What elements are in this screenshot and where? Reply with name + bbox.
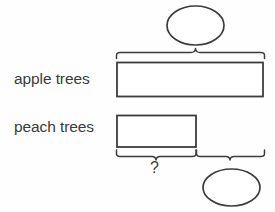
bottom-right-brace	[197, 150, 265, 160]
bottom-right-oval	[203, 169, 260, 206]
tape-diagram-figure: apple trees peach trees ?	[0, 0, 275, 212]
peach-trees-label: peach trees	[14, 118, 94, 136]
unknown-question-mark-label: ?	[150, 159, 159, 177]
top-brace	[117, 49, 265, 59]
apple-trees-label: apple trees	[14, 70, 90, 88]
diagram-canvas	[0, 0, 275, 212]
top-total-oval	[167, 6, 224, 45]
peach-trees-bar	[117, 116, 196, 148]
apple-trees-bar	[117, 63, 263, 97]
